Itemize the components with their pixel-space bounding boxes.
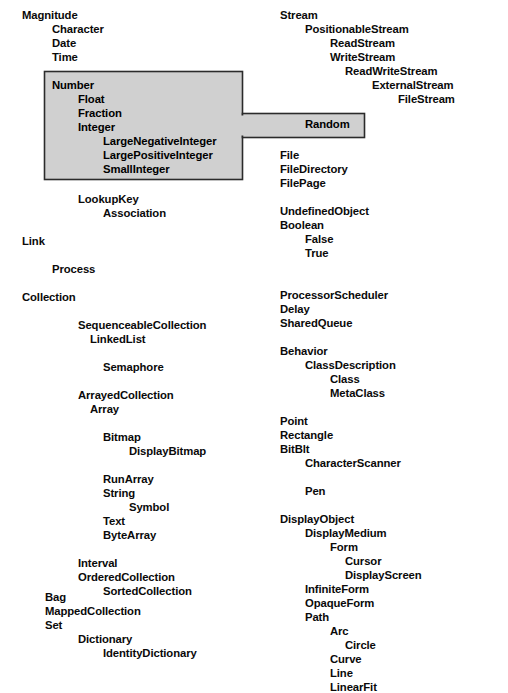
class-name-entry[interactable]: FilePage [280, 178, 326, 189]
class-name-entry[interactable]: Point [280, 416, 308, 427]
class-name-entry[interactable]: Fraction [78, 108, 122, 119]
class-name-entry[interactable]: RunArray [103, 474, 154, 485]
class-name-entry[interactable]: Magnitude [22, 10, 78, 21]
class-name-entry[interactable]: Stream [280, 10, 318, 21]
class-name-entry[interactable]: SequenceableCollection [78, 320, 206, 331]
class-name-entry[interactable]: Association [103, 208, 166, 219]
class-name-entry[interactable]: Dictionary [78, 634, 132, 645]
class-name-entry[interactable]: FileStream [398, 94, 455, 105]
class-name-entry[interactable]: UndefinedObject [280, 206, 369, 217]
class-name-entry[interactable]: OpaqueForm [305, 598, 374, 609]
class-name-entry[interactable]: PositionableStream [305, 24, 409, 35]
class-name-entry[interactable]: Collection [22, 292, 76, 303]
class-name-entry[interactable]: Time [52, 52, 78, 63]
class-name-entry[interactable]: Boolean [280, 220, 324, 231]
class-name-entry[interactable]: File [280, 150, 299, 161]
class-name-entry[interactable]: Random [305, 119, 350, 130]
class-name-entry[interactable]: Line [330, 668, 353, 679]
class-name-entry[interactable]: ClassDescription [305, 360, 396, 371]
class-name-entry[interactable]: Date [52, 38, 76, 49]
class-name-entry[interactable]: False [305, 234, 333, 245]
class-name-entry[interactable]: Path [305, 612, 329, 623]
class-name-entry[interactable]: MetaClass [330, 388, 385, 399]
class-name-entry[interactable]: MappedCollection [45, 606, 141, 617]
class-name-entry[interactable]: IdentityDictionary [103, 648, 197, 659]
class-name-entry[interactable]: LinkedList [90, 334, 146, 345]
class-name-entry[interactable]: Process [52, 264, 95, 275]
class-name-entry[interactable]: BitBlt [280, 444, 310, 455]
class-name-entry[interactable]: DisplayMedium [305, 528, 387, 539]
class-name-entry[interactable]: ProcessorScheduler [280, 290, 388, 301]
class-name-entry[interactable]: OrderedCollection [78, 572, 175, 583]
class-name-entry[interactable]: ByteArray [103, 530, 156, 541]
class-name-entry[interactable]: CharacterScanner [305, 458, 401, 469]
class-name-entry[interactable]: LargeNegativeInteger [103, 136, 217, 147]
class-name-entry[interactable]: SharedQueue [280, 318, 352, 329]
class-name-entry[interactable]: Cursor [345, 556, 381, 567]
class-name-entry[interactable]: Integer [78, 122, 115, 133]
class-name-entry[interactable]: ReadStream [330, 38, 395, 49]
class-name-entry[interactable]: Link [22, 236, 45, 247]
class-name-entry[interactable]: ExternalStream [372, 80, 454, 91]
class-name-entry[interactable]: String [103, 488, 135, 499]
class-name-entry[interactable]: Bitmap [103, 432, 141, 443]
class-name-entry[interactable]: Circle [345, 640, 376, 651]
class-name-entry[interactable]: True [305, 248, 328, 259]
class-name-entry[interactable]: ReadWriteStream [345, 66, 437, 77]
class-name-entry[interactable]: SmallInteger [103, 164, 170, 175]
class-name-entry[interactable]: Character [52, 24, 104, 35]
class-name-entry[interactable]: Curve [330, 654, 362, 665]
class-name-entry[interactable]: Delay [280, 304, 310, 315]
class-name-entry[interactable]: Bag [45, 592, 66, 603]
class-name-entry[interactable]: DisplayObject [280, 514, 354, 525]
class-name-entry[interactable]: Set [45, 620, 62, 631]
class-name-entry[interactable]: Semaphore [103, 362, 164, 373]
class-name-entry[interactable]: WriteStream [330, 52, 395, 63]
class-name-entry[interactable]: FileDirectory [280, 164, 348, 175]
class-name-entry[interactable]: Class [330, 374, 360, 385]
class-name-entry[interactable]: Form [330, 542, 358, 553]
class-name-entry[interactable]: Behavior [280, 346, 328, 357]
class-name-entry[interactable]: InfiniteForm [305, 584, 369, 595]
class-name-entry[interactable]: Text [103, 516, 125, 527]
class-name-entry[interactable]: Interval [78, 558, 117, 569]
class-name-entry[interactable]: Rectangle [280, 430, 333, 441]
class-name-entry[interactable]: SortedCollection [103, 586, 192, 597]
class-name-entry[interactable]: DisplayBitmap [129, 446, 206, 457]
class-name-entry[interactable]: Number [52, 80, 94, 91]
class-name-entry[interactable]: LinearFit [330, 682, 377, 693]
class-name-entry[interactable]: DisplayScreen [345, 570, 422, 581]
class-name-entry[interactable]: Arc [330, 626, 349, 637]
class-name-entry[interactable]: LargePositiveInteger [103, 150, 213, 161]
class-name-entry[interactable]: Pen [305, 486, 325, 497]
class-name-entry[interactable]: ArrayedCollection [78, 390, 174, 401]
class-name-entry[interactable]: Float [78, 94, 105, 105]
class-name-entry[interactable]: Symbol [129, 502, 169, 513]
class-name-entry[interactable]: LookupKey [78, 194, 139, 205]
class-name-entry[interactable]: Array [90, 404, 119, 415]
